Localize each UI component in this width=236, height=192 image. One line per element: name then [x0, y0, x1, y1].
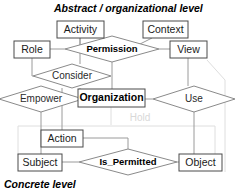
- connector-role-consider: [32, 58, 33, 76]
- relationship-permission[interactable]: Permission: [65, 36, 159, 62]
- entity-role[interactable]: Role: [14, 41, 50, 58]
- entity-organization[interactable]: Organization: [78, 89, 145, 107]
- role-label: Role: [21, 43, 43, 55]
- is-permitted-label: Is_Permitted: [99, 156, 156, 167]
- empower-label: Empower: [20, 93, 63, 104]
- object-label: Object: [185, 156, 215, 168]
- connector-action-is-permitted: [83, 138, 128, 149]
- organization-label: Organization: [79, 91, 143, 103]
- action-label: Action: [47, 132, 76, 144]
- entity-object[interactable]: Object: [179, 154, 222, 171]
- relationship-consider[interactable]: Consider: [33, 64, 111, 88]
- context-label: Context: [147, 23, 183, 35]
- er-diagram-svg: Permission Consider Empower Use Is_Permi…: [0, 0, 236, 192]
- subject-label: Subject: [22, 156, 57, 168]
- permission-label: Permission: [86, 43, 137, 54]
- use-label: Use: [185, 93, 203, 104]
- entity-subject[interactable]: Subject: [18, 154, 62, 171]
- entity-action[interactable]: Action: [41, 130, 83, 147]
- consider-label: Consider: [52, 70, 93, 81]
- relationship-empower[interactable]: Empower: [0, 86, 83, 112]
- relationship-use[interactable]: Use: [153, 86, 235, 112]
- concrete-level-label: Concrete level: [4, 178, 77, 190]
- relationship-is-permitted[interactable]: Is_Permitted: [79, 149, 177, 175]
- connector-context-permission: [140, 38, 152, 44]
- entity-view[interactable]: View: [170, 41, 207, 58]
- abstract-level-label: Abstract / organizational level: [53, 2, 204, 14]
- hold-label: Hold: [130, 112, 151, 123]
- er-diagram-canvas: Permission Consider Empower Use Is_Permi…: [0, 0, 236, 192]
- entity-context[interactable]: Context: [143, 21, 188, 38]
- view-label: View: [177, 43, 200, 55]
- entity-activity[interactable]: Activity: [57, 21, 104, 38]
- activity-label: Activity: [64, 23, 98, 35]
